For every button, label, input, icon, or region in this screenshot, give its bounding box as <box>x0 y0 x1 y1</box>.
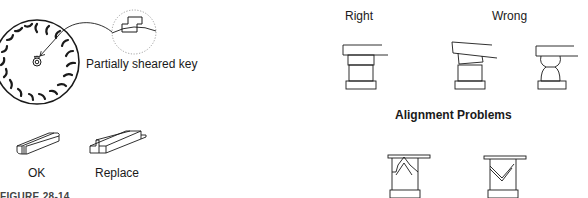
detail-magnifier-icon <box>112 10 156 54</box>
alignment-problem-peak-diagram <box>388 155 430 198</box>
figure-caption: FIGURE 28-14 ... <box>0 191 260 198</box>
diagram-artwork <box>0 0 588 198</box>
right-alignment-diagram <box>343 45 388 89</box>
alignment-problem-vnotch-diagram <box>484 156 526 198</box>
figure-caption-clip: FIGURE 28-14 ... <box>0 191 260 198</box>
ok-key-icon <box>17 133 59 154</box>
callout-arrow-icon <box>40 23 112 56</box>
ok-key-label: OK <box>28 166 45 180</box>
section-title: Alignment Problems <box>395 108 512 122</box>
wrong-angular-diagram <box>452 42 497 89</box>
replace-key-label: Replace <box>95 166 139 180</box>
right-label: Right <box>345 9 373 23</box>
replace-key-icon <box>90 131 146 153</box>
wrong-deformed-diagram <box>536 46 578 89</box>
callout-label: Partially sheared key <box>86 57 197 71</box>
blower-wheel-icon <box>0 20 79 104</box>
wrong-label: Wrong <box>492 9 527 23</box>
